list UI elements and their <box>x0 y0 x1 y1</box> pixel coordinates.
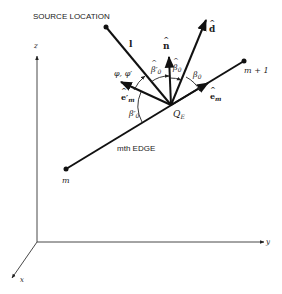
m-label: m <box>62 177 70 185</box>
n-hat-symbol: n <box>163 42 170 51</box>
point-m <box>64 167 69 172</box>
m-plus-1-label: m + 1 <box>244 67 268 75</box>
e-m-prime-label: e′m <box>121 93 135 103</box>
e-m-symbol: e <box>210 92 215 100</box>
e-m-prime-subscript: m <box>128 96 134 103</box>
y-axis-label: y <box>266 239 270 246</box>
e-m-subscript: m <box>215 95 221 102</box>
beta0-label: β0 <box>193 71 201 80</box>
beta0-prime-label: β′0 <box>129 110 139 119</box>
beta0-hat-label: β0 <box>173 64 181 73</box>
beta0-prime-hat-symbol: β′ <box>151 66 157 74</box>
n-hat-vector <box>169 57 171 105</box>
l-vector-label: l <box>129 40 132 49</box>
beta0-hat-symbol: β <box>173 64 178 72</box>
d-hat-label: d <box>209 25 215 34</box>
e-m-label: em <box>210 92 221 102</box>
source-point <box>104 25 109 30</box>
x-axis <box>12 242 37 278</box>
d-hat-symbol: d <box>209 25 215 34</box>
beta0-prime-hat-label: β′0 <box>151 66 161 75</box>
mth-edge <box>64 59 247 172</box>
beta0-hat-subscript: 0 <box>178 66 182 73</box>
phi-label: φ, φ′ <box>114 70 132 78</box>
n-hat-label: n <box>163 42 170 51</box>
beta0-prime-hat-subscript: 0 <box>157 68 161 75</box>
e-m-prime-symbol: e <box>121 93 126 101</box>
source-line-l <box>104 25 172 106</box>
beta0-subscript: 0 <box>198 73 202 80</box>
q-e-label: QE <box>173 110 185 120</box>
q-subscript: E <box>180 113 184 120</box>
point-m-plus-1 <box>242 59 247 64</box>
source-location-label: SOURCE LOCATION <box>33 13 110 21</box>
beta0-prime-subscript: 0 <box>135 112 139 119</box>
mth-edge-label: mth EDGE <box>117 145 155 153</box>
z-axis-label: z <box>34 43 38 50</box>
x-axis-label: x <box>20 277 24 284</box>
